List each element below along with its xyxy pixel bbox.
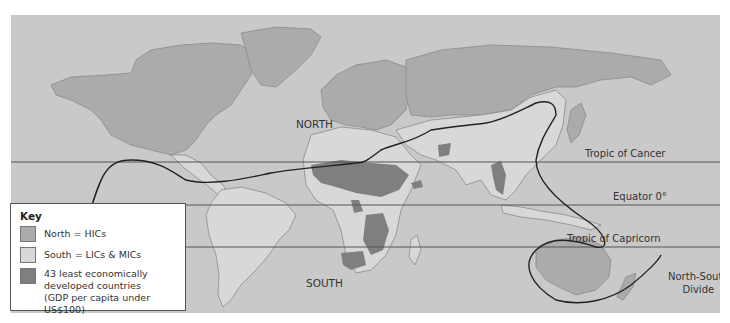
least-developed-swatch bbox=[20, 268, 36, 284]
europe bbox=[321, 60, 411, 130]
legend-label-least-developed: 43 least economically developed countrie… bbox=[44, 268, 185, 316]
legend-label-north: North = HICs bbox=[44, 228, 106, 240]
japan bbox=[567, 103, 586, 143]
north-south-divide-label: North-South Divide bbox=[668, 270, 720, 296]
greenland bbox=[241, 27, 321, 87]
north-america-landmass bbox=[51, 43, 256, 155]
map-legend: Key North = HICs South = LICs & MICs 43 … bbox=[10, 203, 186, 311]
legend-item-north: North = HICs bbox=[20, 226, 106, 242]
tropic-of-capricorn-label: Tropic of Capricorn bbox=[567, 233, 661, 244]
madagascar bbox=[409, 235, 421, 265]
australia bbox=[536, 237, 611, 295]
maritime-southeast-asia bbox=[501, 205, 601, 230]
equator-label: Equator 0° bbox=[613, 191, 667, 202]
ldc-label-line2: developed countries bbox=[44, 280, 185, 292]
north-swatch bbox=[20, 226, 36, 242]
new-zealand bbox=[617, 273, 636, 300]
south-region-label: SOUTH bbox=[306, 277, 343, 289]
tropic-of-cancer-label: Tropic of Cancer bbox=[585, 148, 665, 159]
divide-label-line2: Divide bbox=[668, 283, 720, 296]
ldc-label-line1: 43 least economically bbox=[44, 268, 185, 280]
legend-label-south: South = LICs & MICs bbox=[44, 249, 141, 261]
north-region-label: NORTH bbox=[296, 118, 333, 130]
south-swatch bbox=[20, 247, 36, 263]
ldc-label-line3: (GDP per capita under US$100) bbox=[44, 292, 185, 316]
legend-item-south: South = LICs & MICs bbox=[20, 247, 141, 263]
legend-title: Key bbox=[20, 210, 42, 222]
legend-item-least-developed: 43 least economically developed countrie… bbox=[20, 268, 185, 316]
divide-label-line1: North-South bbox=[668, 270, 720, 283]
